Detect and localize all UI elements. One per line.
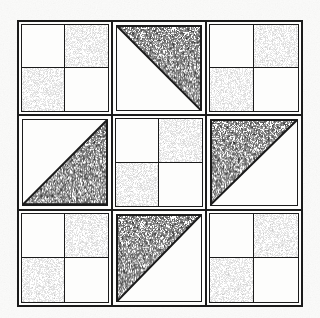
half-square-triangle-unit — [210, 119, 298, 205]
patch-medium — [209, 257, 255, 303]
patch-light — [209, 24, 255, 69]
patch-medium — [21, 67, 66, 112]
patch-light — [64, 67, 109, 112]
patch-medium — [115, 162, 160, 207]
quilt-unit-middle-right — [207, 116, 301, 210]
four-patch-unit — [210, 25, 298, 111]
quilt-unit-middle-left — [19, 116, 113, 210]
four-patch-unit — [22, 214, 108, 302]
quilt-unit-top-center — [113, 22, 207, 116]
quilt-block-diagram — [0, 0, 320, 318]
patch-medium — [253, 24, 299, 69]
four-patch-unit — [210, 214, 298, 302]
patch-medium — [21, 257, 66, 303]
patch-light — [209, 213, 255, 259]
half-square-triangle-unit — [22, 119, 108, 205]
patch-light — [253, 257, 299, 303]
quilt-unit-top-left — [19, 22, 113, 116]
half-square-triangle-unit — [116, 214, 202, 302]
patch-medium — [158, 118, 203, 163]
quilt-unit-bottom-center — [113, 211, 207, 305]
patch-medium — [64, 24, 109, 69]
four-patch-unit — [116, 119, 202, 205]
quilt-unit-bottom-left — [19, 211, 113, 305]
quilt-unit-center — [113, 116, 207, 210]
patch-light — [115, 118, 160, 163]
patch-light — [21, 24, 66, 69]
patch-light — [158, 162, 203, 207]
patch-light — [21, 213, 66, 259]
quilt-block-outer-frame — [17, 20, 303, 307]
patch-light — [64, 257, 109, 303]
four-patch-unit — [22, 25, 108, 111]
patch-medium — [209, 67, 255, 112]
patch-light — [253, 67, 299, 112]
half-square-triangle-unit — [116, 25, 202, 111]
patch-medium — [64, 213, 109, 259]
quilt-unit-bottom-right — [207, 211, 301, 305]
quilt-unit-grid — [19, 22, 301, 305]
patch-medium — [253, 213, 299, 259]
quilt-unit-top-right — [207, 22, 301, 116]
